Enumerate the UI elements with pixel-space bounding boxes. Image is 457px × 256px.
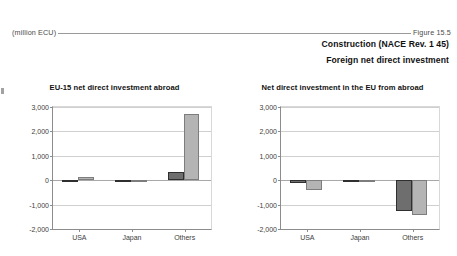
unit-label: (million ECU) (0, 28, 56, 37)
bar-series-1-japan (343, 180, 359, 182)
y-axis-tick-label: -1,000 (257, 201, 277, 208)
x-axis-tick-label: Japan (334, 234, 387, 241)
bar-series-1-others (168, 172, 184, 181)
bar-series-2-usa (78, 177, 94, 180)
bar-series-1-usa (290, 180, 306, 183)
figure-title-block: Construction (NACE Rev. 1 45) Foreign ne… (322, 36, 449, 68)
bar-series-2-usa (306, 180, 322, 190)
bar-series-1-japan (115, 180, 131, 182)
figure-title-primary: Construction (NACE Rev. 1 45) (322, 36, 449, 52)
x-axis-tick-label: Others (386, 234, 439, 241)
plot-area: 3,0002,0001,0000-1,000-2,000USAJapanOthe… (280, 106, 440, 230)
plot-area: 3,0002,0001,0000-1,000-2,000USAJapanOthe… (52, 106, 212, 230)
y-axis-tick-mark (50, 229, 53, 230)
y-axis-tick-label: 2,000 (259, 128, 277, 135)
x-axis-tick-mark (360, 229, 361, 232)
bar-series-2-others (412, 180, 428, 215)
y-axis-tick-label: -2,000 (29, 226, 49, 233)
bar-series-2-japan (131, 180, 147, 182)
x-axis-tick-label: Others (158, 234, 211, 241)
plot-area-wrapper: 3,0002,0001,0000-1,000-2,000USAJapanOthe… (280, 106, 440, 230)
x-axis-tick-mark (307, 229, 308, 232)
chart-eu15-net-direct-investment-abroad: EU-15 net direct investment abroad 3,000… (0, 80, 229, 256)
y-axis-tick-label: 0 (45, 177, 49, 184)
header-divider (58, 33, 411, 34)
bar-series-1-usa (62, 180, 78, 182)
x-axis-tick-mark (132, 229, 133, 232)
y-axis-tick-label: -2,000 (257, 226, 277, 233)
x-axis-tick-label: Japan (106, 234, 159, 241)
y-axis-tick-label: 1,000 (259, 152, 277, 159)
figure-title-secondary: Foreign net direct investment (322, 52, 449, 68)
y-axis-tick-label: 3,000 (259, 104, 277, 111)
bar-group: Japan (106, 107, 159, 229)
bar-series-2-japan (359, 180, 375, 182)
bar-group: Others (158, 107, 211, 229)
x-axis-tick-label: USA (281, 234, 334, 241)
x-axis-tick-mark (185, 229, 186, 232)
x-axis-tick-label: USA (53, 234, 106, 241)
bar-series-1-others (396, 180, 412, 211)
x-axis-tick-mark (79, 229, 80, 232)
chart-net-direct-investment-in-eu-from-abroad: Net direct investment in the EU from abr… (228, 80, 457, 256)
charts-container: EU-15 net direct investment abroad 3,000… (0, 80, 457, 256)
bar-series-2-others (184, 114, 200, 180)
y-axis-tick-label: 2,000 (31, 128, 49, 135)
y-axis-tick-label: 0 (273, 177, 277, 184)
y-axis-tick-label: 1,000 (31, 152, 49, 159)
plot-area-wrapper: 3,0002,0001,0000-1,000-2,000USAJapanOthe… (52, 106, 212, 230)
bar-group: Others (386, 107, 439, 229)
chart-title: EU-15 net direct investment abroad (0, 83, 229, 92)
chart-title: Net direct investment in the EU from abr… (228, 83, 457, 92)
bar-group: Japan (334, 107, 387, 229)
bar-group: USA (53, 107, 106, 229)
y-axis-tick-label: 3,000 (31, 104, 49, 111)
y-axis-tick-label: -1,000 (29, 201, 49, 208)
bar-group: USA (281, 107, 334, 229)
x-axis-tick-mark (413, 229, 414, 232)
y-axis-tick-mark (278, 229, 281, 230)
